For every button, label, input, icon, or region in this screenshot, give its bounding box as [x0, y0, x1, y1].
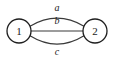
edge-c-arc	[30, 36, 84, 44]
graph-canvas: 1 2 a b c	[0, 0, 113, 58]
edge-b-label: b	[55, 15, 60, 26]
edge-a-label: a	[55, 2, 60, 13]
node-2-label: 2	[92, 25, 98, 37]
multigraph-diagram: 1 2 a b c	[0, 0, 113, 58]
edge-c-label: c	[55, 46, 60, 57]
node-1-label: 1	[16, 25, 22, 37]
